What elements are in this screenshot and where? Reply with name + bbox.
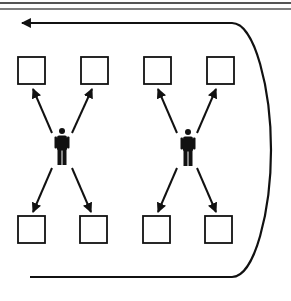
box-bottom-left: [18, 216, 45, 243]
arrow-1: [158, 89, 177, 133]
diagram-svg: [0, 0, 291, 301]
arrow-2: [197, 89, 216, 133]
arrow-4: [72, 168, 91, 212]
arrow-2: [72, 89, 92, 133]
box-bottom-left: [143, 216, 170, 243]
box-top-left: [18, 57, 45, 84]
group-1: [18, 57, 108, 243]
box-top-left: [144, 57, 171, 84]
person-groups: [18, 57, 234, 243]
box-bottom-right: [80, 216, 107, 243]
box-top-right: [207, 57, 234, 84]
diagram-canvas: Two persons each pointing to four surrou…: [0, 0, 291, 301]
box-bottom-right: [205, 216, 232, 243]
arrow-3: [33, 168, 52, 212]
header-rules: [0, 3, 291, 9]
person-icon: [181, 129, 196, 166]
arrow-4: [197, 168, 216, 212]
person-icon: [55, 128, 70, 165]
arrow-1: [33, 89, 52, 133]
group-2: [143, 57, 234, 243]
arrow-3: [158, 168, 177, 212]
box-top-right: [81, 57, 108, 84]
